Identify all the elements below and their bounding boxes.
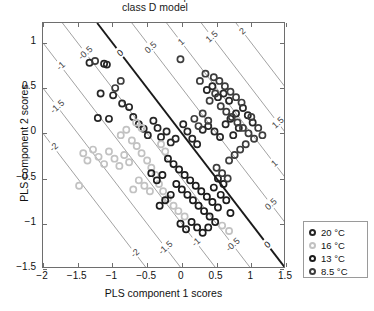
y-tick-label: −1.5 (2, 261, 36, 272)
x-tick-label: 1.5 (265, 270, 305, 281)
legend-item-2[interactable]: 13 °C (309, 252, 367, 265)
y-tick-mark (43, 133, 47, 134)
y-axis-title: PLS component 2 scores (18, 63, 30, 223)
y-tick-mark (280, 133, 284, 134)
y-tick-mark (280, 179, 284, 180)
y-tick-label: 1 (2, 35, 36, 46)
legend-label: 16 °C (321, 239, 345, 252)
legend-label: 20 °C (321, 226, 345, 239)
x-tick-mark (251, 23, 252, 27)
legend-item-3[interactable]: 8.5 °C (309, 265, 367, 278)
x-tick-mark (43, 23, 44, 27)
x-tick-mark (182, 263, 183, 267)
x-tick-mark (43, 263, 44, 267)
x-tick-mark (147, 263, 148, 267)
y-tick-mark (43, 43, 47, 44)
x-tick-mark (112, 23, 113, 27)
plot-clip: -2-2-1.5-1.5-1-1-0.5-0.5000.50.5111.51.5… (43, 23, 284, 267)
y-tick-mark (280, 88, 284, 89)
x-tick-mark (78, 23, 79, 27)
scatter-canvas: -2-2-1.5-1.5-1-1-0.5-0.5000.50.5111.51.5… (43, 23, 284, 267)
x-tick-mark (182, 23, 183, 27)
legend-marker-icon (309, 255, 316, 262)
x-tick-mark (217, 23, 218, 27)
x-tick-mark (286, 263, 287, 267)
x-tick-mark (147, 23, 148, 27)
legend-item-0[interactable]: 20 °C (309, 226, 367, 239)
legend-marker-icon (309, 268, 316, 275)
plot-area: -2-2-1.5-1.5-1-1-0.5-0.5000.50.5111.51.5… (42, 22, 285, 268)
x-axis-title: PLS component 1 scores (42, 287, 285, 299)
x-tick-mark (251, 263, 252, 267)
chart-title-line2: class D model (0, 1, 310, 13)
legend-label: 8.5 °C (321, 265, 348, 278)
y-tick-mark (43, 88, 47, 89)
x-tick-mark (286, 23, 287, 27)
legend[interactable]: 20 °C16 °C13 °C8.5 °C (303, 221, 368, 278)
legend-marker-icon (309, 242, 316, 249)
y-tick-mark (280, 43, 284, 44)
x-tick-mark (112, 263, 113, 267)
y-tick-mark (280, 224, 284, 225)
legend-item-1[interactable]: 16 °C (309, 239, 367, 252)
figure-root: PLS-DA scores plot class D model -2-2-1.… (0, 0, 374, 311)
legend-label: 13 °C (321, 252, 345, 265)
x-tick-mark (78, 263, 79, 267)
y-tick-mark (43, 179, 47, 180)
legend-marker-icon (309, 229, 316, 236)
x-tick-mark (217, 263, 218, 267)
y-tick-mark (43, 224, 47, 225)
